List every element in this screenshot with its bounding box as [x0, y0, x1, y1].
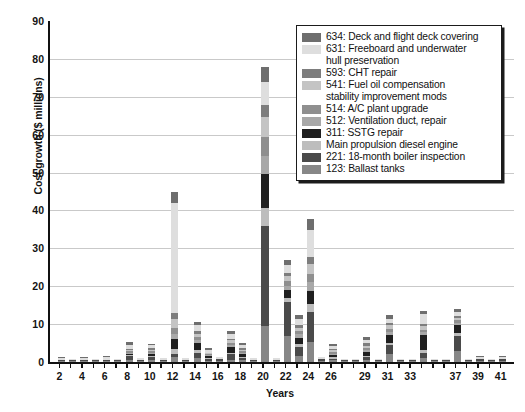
stacked-bar[interactable] — [295, 315, 302, 362]
y-tick-label: 60 — [18, 130, 44, 141]
gridline — [50, 286, 514, 287]
legend-item[interactable]: 512: Ventilation duct, repair — [302, 115, 497, 127]
legend-item[interactable]: 514: A/C plant upgrade — [302, 103, 497, 115]
gridline — [50, 324, 514, 325]
x-tick-mark — [477, 362, 479, 368]
bar-segment — [261, 208, 268, 226]
legend-item[interactable]: 221: 18-month boiler inspection — [302, 151, 497, 163]
stacked-bar[interactable] — [454, 309, 461, 362]
x-tick-label: 33 — [395, 370, 425, 382]
y-tick-label: 0 — [18, 357, 44, 368]
x-tick-mark — [500, 362, 502, 368]
y-tick-label: 20 — [18, 281, 44, 292]
y-tick-label: 10 — [18, 319, 44, 330]
bar-segment — [171, 203, 178, 313]
x-tick-mark — [126, 362, 128, 368]
bar-segment — [454, 325, 461, 333]
x-tick-mark — [319, 362, 321, 368]
x-tick-mark — [308, 362, 310, 368]
legend-label: 634: Deck and flight deck covering — [326, 31, 478, 43]
x-tick-mark — [364, 362, 366, 368]
x-tick-mark — [274, 362, 276, 368]
stacked-bar[interactable] — [329, 346, 336, 362]
y-tick-label: 50 — [18, 168, 44, 179]
stacked-bar[interactable] — [205, 348, 212, 362]
stacked-bar[interactable] — [386, 318, 393, 362]
bar-segment — [171, 192, 178, 204]
legend-label: 541: Fuel oil compensation — [326, 79, 445, 91]
legend-label: 514: A/C plant upgrade — [326, 103, 428, 115]
x-tick-mark — [285, 362, 287, 368]
legend-color-swatch — [302, 45, 321, 54]
bar-segment — [307, 291, 314, 305]
x-tick-mark — [455, 362, 457, 368]
bar-segment — [261, 105, 268, 117]
legend-item[interactable]: 541: Fuel oil compensation — [302, 79, 497, 91]
legend-item[interactable]: Main propulsion diesel engine — [302, 139, 497, 151]
x-axis-tick-labels: 2468101214161820222426293133373941 — [48, 370, 512, 386]
legend-label: 311: SSTG repair — [326, 127, 403, 139]
x-tick-mark — [228, 362, 230, 368]
x-tick-mark — [421, 362, 423, 368]
legend-label: 123: Ballast tanks — [326, 163, 405, 175]
legend-item[interactable]: 123: Ballast tanks — [302, 163, 497, 175]
legend-label: 593: CHT repair — [326, 67, 397, 79]
bar-segment — [307, 312, 314, 342]
bar-segment — [261, 174, 268, 208]
legend-color-swatch — [302, 117, 321, 126]
legend-item[interactable]: 311: SSTG repair — [302, 127, 497, 139]
x-tick-mark — [59, 362, 61, 368]
x-tick-mark — [262, 362, 264, 368]
bar-segment — [284, 265, 291, 273]
stacked-bar[interactable] — [194, 322, 201, 362]
bar-segment — [307, 219, 314, 230]
gridline — [50, 210, 514, 211]
stacked-bar[interactable] — [171, 192, 178, 363]
x-tick-mark — [489, 362, 491, 368]
stacked-bar[interactable] — [307, 219, 314, 362]
legend-color-swatch — [302, 69, 321, 78]
legend-item[interactable]: 634: Deck and flight deck covering — [302, 31, 497, 43]
stacked-bar[interactable] — [148, 343, 155, 362]
x-tick-mark — [183, 362, 185, 368]
stacked-bar[interactable] — [363, 337, 370, 362]
x-tick-mark — [104, 362, 106, 368]
bar-segment — [261, 137, 268, 156]
legend-label-continuation: hull preservation — [302, 55, 497, 67]
y-tick-label: 80 — [18, 54, 44, 65]
stacked-bar[interactable] — [284, 260, 291, 362]
bar-segment — [307, 264, 314, 274]
x-tick-mark — [172, 362, 174, 368]
stacked-bar[interactable] — [261, 66, 268, 362]
x-tick-mark — [251, 362, 253, 368]
legend-color-swatch — [302, 165, 321, 174]
x-tick-mark — [149, 362, 151, 368]
bar-segment — [386, 345, 393, 353]
x-tick-mark — [375, 362, 377, 368]
legend-label-continuation: stability improvement mods — [302, 91, 497, 103]
bar-segment — [307, 230, 314, 257]
bar-segment — [386, 335, 393, 343]
stacked-bar[interactable] — [227, 331, 234, 362]
chart-figure: Cost growth ($ millions) 908070605040302… — [0, 0, 525, 412]
legend-label: 512: Ventilation duct, repair — [326, 115, 446, 127]
x-tick-mark — [70, 362, 72, 368]
x-axis-title: Years — [48, 387, 512, 399]
stacked-bar[interactable] — [420, 310, 427, 362]
legend-color-swatch — [302, 153, 321, 162]
x-tick-mark — [330, 362, 332, 368]
legend-label: Main propulsion diesel engine — [326, 139, 458, 151]
x-tick-mark — [466, 362, 468, 368]
x-tick-mark — [398, 362, 400, 368]
bar-segment — [307, 257, 314, 264]
bar-segment — [386, 354, 393, 362]
legend-item[interactable]: 593: CHT repair — [302, 67, 497, 79]
x-tick-mark — [353, 362, 355, 368]
stacked-bar[interactable] — [126, 342, 133, 362]
bar-segment — [454, 336, 461, 352]
bar-segment — [284, 302, 291, 336]
stacked-bar[interactable] — [239, 343, 246, 362]
legend-item[interactable]: 631: Freeboard and underwater — [302, 43, 497, 55]
legend-color-swatch — [302, 141, 321, 150]
bar-segment — [420, 335, 427, 350]
